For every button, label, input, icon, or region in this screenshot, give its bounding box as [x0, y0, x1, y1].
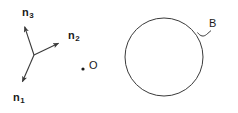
vector-n1-shaft: [22, 55, 34, 82]
basis-vector-group: [22, 27, 58, 82]
vector-label-n3-subscript: 3: [29, 11, 33, 20]
body-circle: [125, 18, 203, 96]
vector-label-n1-subscript: 1: [20, 96, 24, 105]
vector-n3-shaft: [25, 27, 34, 55]
body-leader-line: [198, 31, 212, 36]
vector-label-n2-base: n: [68, 29, 75, 41]
vector-label-n1-base: n: [13, 91, 20, 103]
vector-label-n2-subscript: 2: [75, 34, 79, 43]
figure-canvas: [0, 0, 238, 113]
origin-point-dot: [81, 67, 84, 70]
vector-label-n2: n2: [68, 30, 79, 41]
vector-label-n3: n3: [22, 7, 33, 18]
origin-point-label: O: [89, 60, 98, 71]
vector-n2-shaft: [34, 43, 59, 55]
mechanics-figure: n1 n2 n3 O B: [0, 0, 238, 113]
body-label: B: [209, 18, 216, 29]
vector-label-n3-base: n: [22, 6, 29, 18]
vector-label-n1: n1: [13, 92, 24, 103]
